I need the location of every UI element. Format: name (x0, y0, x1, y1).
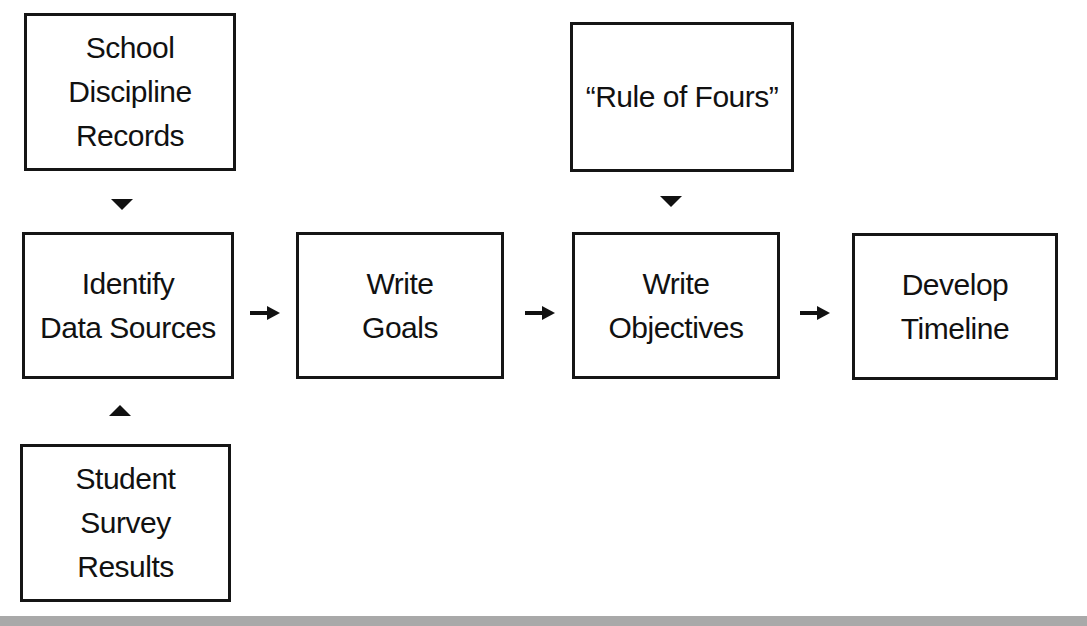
node-label-line: Records (76, 114, 184, 158)
node-write-objectives: Write Objectives (572, 232, 780, 379)
arrow-down-icon (111, 199, 133, 210)
node-label-line: Timeline (901, 307, 1009, 351)
node-label-line: Develop (902, 263, 1009, 307)
bottom-divider-bar (0, 616, 1087, 626)
node-school-discipline-records: School Discipline Records (24, 13, 236, 171)
arrow-right-icon (250, 306, 280, 320)
node-identify-data-sources: Identify Data Sources (22, 232, 234, 379)
node-label-line: School (86, 26, 175, 70)
node-label-line: Goals (362, 306, 438, 350)
node-student-survey-results: Student Survey Results (20, 444, 231, 602)
node-label-line: Student (76, 457, 176, 501)
node-label-line: Objectives (608, 306, 743, 350)
node-label-line: Results (77, 545, 174, 589)
arrow-right-icon (525, 306, 555, 320)
node-label-line: Write (367, 262, 434, 306)
node-label-line: Data Sources (40, 306, 216, 350)
node-label-line: “Rule of Fours” (586, 75, 779, 119)
node-develop-timeline: Develop Timeline (852, 233, 1058, 380)
arrow-up-icon (109, 405, 131, 416)
node-label-line: Write (643, 262, 710, 306)
node-label-line: Discipline (68, 70, 191, 114)
node-label-line: Survey (80, 501, 170, 545)
node-write-goals: Write Goals (296, 232, 504, 379)
arrow-right-icon (800, 306, 830, 320)
arrow-down-icon (660, 196, 682, 207)
node-rule-of-fours: “Rule of Fours” (570, 22, 794, 172)
node-label-line: Identify (82, 262, 175, 306)
